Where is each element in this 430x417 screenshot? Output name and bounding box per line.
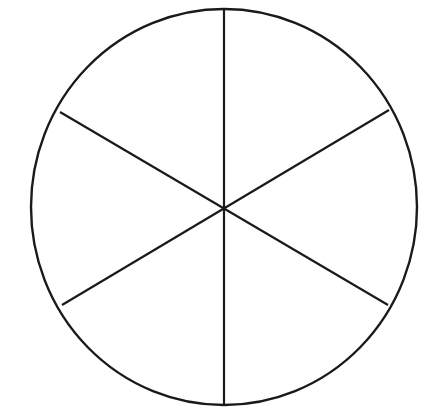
- figure-canvas: [0, 0, 430, 417]
- circle-sectors-diagram: [0, 0, 430, 417]
